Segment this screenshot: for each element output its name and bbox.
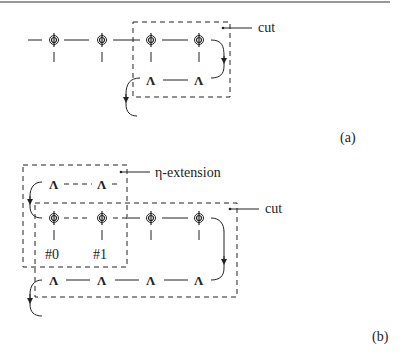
lambda-node: Λ: [97, 177, 107, 192]
phi-node: [147, 33, 156, 47]
cut-label: cut: [265, 201, 282, 216]
index-label: #0: [45, 247, 59, 262]
cut-box: [35, 203, 237, 297]
panel-a: Λ Λ cut (a): [28, 20, 356, 146]
lambda-node: Λ: [194, 273, 204, 288]
lambda-node: Λ: [146, 273, 156, 288]
cut-label: cut: [258, 20, 275, 35]
panel-label: (b): [372, 329, 389, 345]
panel-b: Λ Λ #0 #1 Λ Λ Λ Λ: [23, 165, 389, 345]
lambda-node: Λ: [146, 73, 156, 88]
eta-extension-box: [23, 165, 127, 267]
panel-label: (a): [340, 130, 356, 146]
phi-node: [147, 211, 156, 225]
lambda-node: Λ: [49, 177, 59, 192]
eta-extension-label: η-extension: [155, 165, 221, 180]
phi-node: [195, 33, 204, 47]
diagram-canvas: Λ Λ cut (a) Λ Λ: [0, 0, 407, 364]
phi-node: [98, 211, 107, 225]
phi-node: [98, 33, 107, 47]
phi-node: [195, 211, 204, 225]
lambda-node: Λ: [194, 73, 204, 88]
lambda-node: Λ: [49, 273, 59, 288]
phi-node: [50, 33, 59, 47]
lambda-node: Λ: [97, 273, 107, 288]
phi-node: [50, 211, 59, 225]
index-label: #1: [93, 247, 107, 262]
